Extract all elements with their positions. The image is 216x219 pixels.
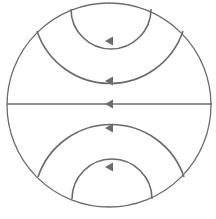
arrow-left-icon bbox=[105, 37, 113, 46]
arrow-left-icon bbox=[105, 163, 113, 172]
field-diagram bbox=[0, 0, 216, 219]
arrow-left-icon bbox=[105, 100, 113, 109]
